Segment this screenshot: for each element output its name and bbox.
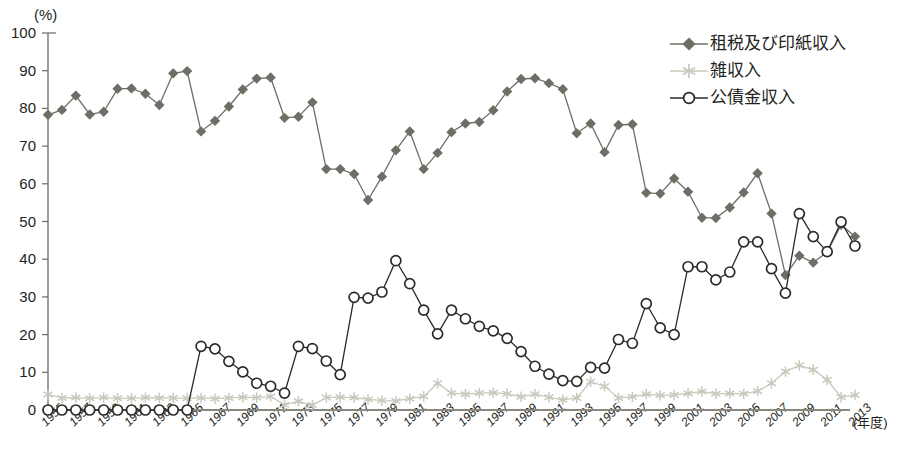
series-open-circle (43, 209, 860, 415)
chart-legend: 租税及び印紙収入 雑収入 (668, 30, 900, 111)
legend-item-public-bond-revenue: 公債金収入 (668, 84, 900, 111)
revenue-composition-chart: (%) (年度) 1009080706050403020100 19551957… (0, 0, 906, 474)
legend-label: 雑収入 (710, 61, 761, 81)
legend-label: 公債金収入 (710, 88, 795, 108)
legend-item-misc-revenue: 雑収入 (668, 57, 900, 84)
legend-item-tax-stamp-revenue: 租税及び印紙収入 (668, 30, 900, 57)
series-asterisk (43, 360, 859, 410)
asterisk-icon (668, 61, 710, 81)
filled-diamond-icon (668, 34, 710, 54)
legend-label: 租税及び印紙収入 (710, 34, 846, 54)
open-circle-icon (668, 88, 710, 108)
